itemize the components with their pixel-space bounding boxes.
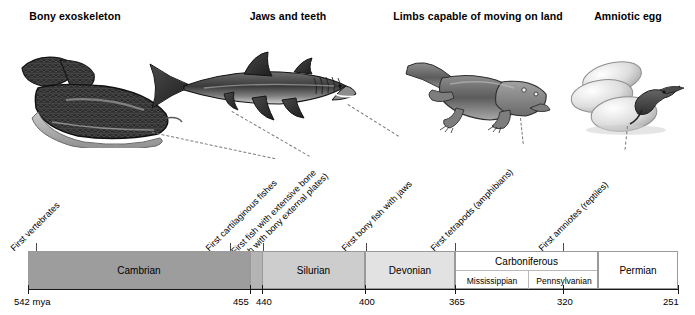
event-label-first-amniotes: First amniotes (reptiles) bbox=[537, 180, 611, 254]
event-label-first-tetrapods: First tetrapods (amphibians) bbox=[429, 167, 516, 254]
event-text: First bony fish with jaws bbox=[340, 179, 414, 253]
axis-value-365: 365 bbox=[449, 296, 465, 307]
event-text: First tetrapods (amphibians) bbox=[429, 167, 515, 253]
event-tick-amniotes bbox=[563, 243, 564, 251]
axis-value-400: 400 bbox=[359, 296, 375, 307]
heading-jaws-and-teeth: Jaws and teeth bbox=[250, 10, 327, 22]
geologic-timeline: Cambrian Ordovician Silurian Devonian bbox=[28, 251, 678, 289]
period-cambrian[interactable]: Cambrian bbox=[28, 251, 250, 289]
subperiod-label: Pennsylvanian bbox=[536, 276, 591, 286]
axis-tick-365 bbox=[455, 285, 456, 294]
heading-bony-exoskeleton: Bony exoskeleton bbox=[29, 10, 120, 22]
period-silurian[interactable]: Silurian bbox=[262, 251, 365, 289]
period-carboniferous[interactable]: Carboniferous Mississippian Pennsylvania… bbox=[455, 251, 598, 289]
event-tick-first-vertebrates bbox=[36, 243, 37, 251]
event-tick-extensive-bone bbox=[263, 243, 264, 251]
event-text-line2: (fish with bony external plates) bbox=[237, 171, 330, 264]
axis-tick-542 bbox=[28, 285, 29, 294]
axis-tick-440 bbox=[262, 285, 263, 294]
subperiod-mississippian[interactable]: Mississippian bbox=[456, 271, 528, 290]
tetrapod-amphibian-illustration bbox=[398, 48, 553, 136]
figure-canvas: Bony exoskeleton Jaws and teeth Limbs ca… bbox=[0, 0, 695, 315]
axis-tick-455 bbox=[250, 285, 251, 294]
period-label: Carboniferous bbox=[456, 252, 597, 271]
axis-tick-400 bbox=[365, 285, 366, 294]
period-label: Cambrian bbox=[117, 265, 160, 276]
period-label: Silurian bbox=[297, 265, 330, 276]
axis-value-251: 251 bbox=[663, 296, 679, 307]
axis-tick-320 bbox=[563, 285, 564, 294]
period-label: Permian bbox=[619, 265, 656, 276]
event-tick-tetrapods bbox=[455, 243, 456, 251]
axis-value-542: 542 mya bbox=[14, 296, 50, 307]
amniotic-eggs-illustration bbox=[568, 48, 694, 140]
event-tick-cartilaginous bbox=[230, 243, 231, 251]
heading-amniotic-egg: Amniotic egg bbox=[594, 10, 662, 22]
period-label: Devonian bbox=[389, 265, 431, 276]
axis-value-320: 320 bbox=[557, 296, 573, 307]
event-label-first-bony-fish-with-jaws: First bony fish with jaws bbox=[340, 179, 415, 254]
event-tick-bony-fish-jaws bbox=[366, 243, 367, 251]
timeline-axis bbox=[28, 289, 678, 290]
axis-value-455: 455 bbox=[233, 296, 249, 307]
subperiod-label: Mississippian bbox=[467, 276, 518, 286]
period-permian[interactable]: Permian bbox=[598, 251, 678, 289]
event-text: First amniotes (reptiles) bbox=[537, 180, 611, 254]
period-devonian[interactable]: Devonian bbox=[365, 251, 455, 289]
heading-limbs-on-land: Limbs capable of moving on land bbox=[393, 10, 562, 22]
axis-value-440: 440 bbox=[256, 296, 272, 307]
axis-tick-251 bbox=[678, 285, 679, 294]
